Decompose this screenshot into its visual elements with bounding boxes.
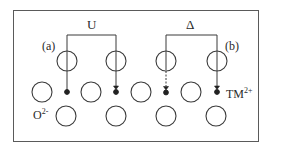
coulomb-bracket	[67, 35, 116, 88]
single-electron-dot-icon	[65, 90, 70, 95]
double-electron-icon	[114, 86, 119, 94]
oxygen-symbol: O	[33, 108, 42, 122]
metal-charge: 2+	[244, 86, 253, 95]
oxygen-circle	[131, 82, 151, 102]
electron-markers	[65, 86, 220, 95]
splitting-bracket	[166, 35, 217, 88]
metal-ion-label: TM2+	[226, 88, 253, 100]
oxygen-circle	[81, 82, 101, 102]
double-electron-icon	[215, 86, 220, 94]
lower-oxygen-row	[56, 106, 226, 126]
metal-symbol: TM	[226, 87, 244, 101]
oxygen-circle	[156, 106, 176, 126]
upper-orbitals	[57, 51, 227, 71]
oxygen-circle	[106, 106, 126, 126]
double-electron-dashed-icon	[164, 87, 169, 95]
diagram-frame	[14, 11, 259, 142]
oxygen-ion-label: O2-	[33, 109, 48, 121]
oxygen-circle	[56, 106, 76, 126]
coulomb-label: U	[87, 18, 96, 31]
hubbard-charge-transfer-diagram	[0, 0, 281, 160]
case-a-label: (a)	[42, 40, 55, 52]
splitting-label: Δ	[186, 18, 194, 31]
oxygen-circle	[32, 82, 52, 102]
oxygen-circle	[181, 82, 201, 102]
oxygen-charge: 2-	[42, 107, 49, 116]
case-b-label: (b)	[225, 40, 239, 52]
oxygen-circle	[206, 106, 226, 126]
